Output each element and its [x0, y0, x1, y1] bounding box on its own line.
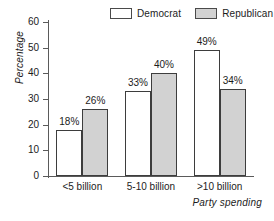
bar-democrat: [194, 50, 220, 176]
bar-value-label: 34%: [216, 76, 250, 86]
y-axis-tick-label: 30: [21, 94, 39, 104]
bar-value-label: 33%: [121, 78, 155, 88]
bar-republican: [151, 73, 177, 176]
bar-value-label: 26%: [78, 96, 112, 106]
y-axis-tick: [43, 176, 48, 177]
bar-republican: [220, 89, 246, 176]
bar-value-label: 40%: [147, 60, 181, 70]
bar-chart: Democrat Republican 0102030405060 Percen…: [0, 0, 274, 221]
legend-item-democrat: Democrat: [110, 8, 181, 19]
bar-democrat: [125, 91, 151, 176]
legend-swatch-democrat: [110, 8, 132, 19]
legend-item-republican: Republican: [195, 8, 273, 19]
x-axis-category-label: 5-10 billion: [117, 181, 186, 192]
bar-democrat: [56, 130, 82, 176]
x-axis-category-label: >10 billion: [185, 181, 254, 192]
y-axis-tick-label: 20: [21, 120, 39, 130]
chart-legend: Democrat Republican: [110, 8, 273, 19]
y-axis-title: Percentage: [14, 23, 25, 93]
y-axis-tick-label: 0: [21, 171, 39, 181]
x-axis-category-label: <5 billion: [48, 181, 117, 192]
bar-value-label: 49%: [190, 37, 224, 47]
y-axis-tick-label: 10: [21, 145, 39, 155]
legend-label-democrat: Democrat: [137, 8, 181, 19]
legend-swatch-republican: [195, 8, 217, 19]
x-axis-line: [48, 176, 254, 177]
x-axis-title: Party spending: [192, 197, 262, 208]
bar-value-label: 18%: [52, 117, 86, 127]
legend-label-republican: Republican: [222, 8, 273, 19]
